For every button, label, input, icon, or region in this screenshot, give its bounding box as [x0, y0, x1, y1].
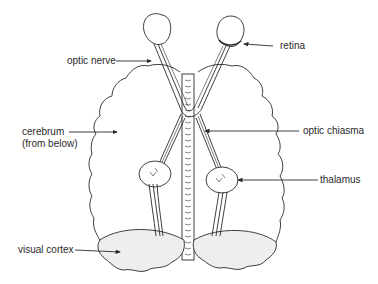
left-visual-cortex — [98, 230, 184, 272]
label-cerebrum-sub: (from below) — [22, 138, 78, 149]
label-visual-cortex: visual cortex — [18, 244, 74, 255]
midline-structure — [182, 74, 194, 260]
label-retina: retina — [280, 40, 305, 51]
visual-pathway-diagram: optic nerve retina cerebrum (from below)… — [0, 0, 378, 284]
retina-leader — [244, 44, 273, 46]
label-cerebrum: cerebrum — [22, 126, 64, 137]
label-optic-chiasma: optic chiasma — [303, 125, 364, 136]
left-eyeball — [143, 14, 170, 45]
label-thalamus: thalamus — [320, 174, 361, 185]
label-optic-nerve: optic nerve — [67, 55, 116, 66]
right-visual-cortex — [193, 230, 276, 269]
right-thalamus — [206, 167, 238, 193]
right-hemisphere — [198, 64, 284, 242]
left-thalamus — [139, 161, 171, 187]
